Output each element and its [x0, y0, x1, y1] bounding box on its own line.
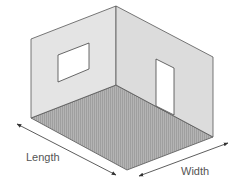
width-label: Width	[181, 165, 209, 177]
room-diagram: Length Width	[0, 0, 235, 189]
length-label: Length	[26, 151, 60, 163]
door	[156, 59, 174, 115]
